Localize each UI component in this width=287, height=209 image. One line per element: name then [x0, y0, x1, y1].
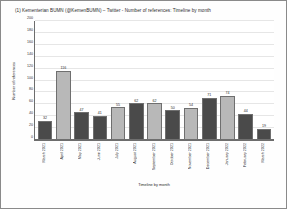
- x-axis-title: Timeline by month: [34, 182, 274, 187]
- bar-slot: 71: [200, 21, 218, 140]
- bar[interactable]: 54: [184, 108, 199, 140]
- x-label-wrap: October 2021: [168, 143, 177, 177]
- x-label-wrap: March 2022: [259, 143, 268, 177]
- chart-title: (1) Kementerian BUMN (@KemenBUMN) – Twit…: [15, 8, 277, 14]
- x-label-wrap: September 2021: [150, 143, 159, 177]
- y-tick-label: 40: [29, 111, 33, 115]
- x-label-wrap: May 2021: [76, 143, 85, 177]
- x-tick-label: May 2021: [76, 143, 85, 159]
- x-label-slot: July 2021: [108, 142, 126, 178]
- x-tick-label: December 2021: [204, 143, 213, 169]
- x-label-slot: January 2022: [218, 142, 236, 178]
- bar-value-label: 54: [189, 103, 193, 107]
- x-label-wrap: April 2021: [58, 143, 67, 177]
- x-tick-label: September 2021: [150, 143, 159, 170]
- x-label-slot: March 2021: [35, 142, 53, 178]
- x-label-wrap: December 2021: [204, 143, 213, 177]
- y-axis-title-wrap: Number of references: [9, 21, 18, 141]
- y-axis-title: Number of references: [11, 62, 16, 100]
- x-axis-tick-labels: March 2021April 2021May 2021June 2021Jul…: [34, 142, 274, 178]
- x-label-slot: November 2021: [182, 142, 200, 178]
- bar-value-label: 32: [43, 116, 47, 120]
- x-label-wrap: November 2021: [186, 143, 195, 177]
- x-tick-label: August 2021: [131, 143, 140, 164]
- bar-slot: 47: [72, 21, 90, 140]
- y-tick-label: 80: [29, 87, 33, 91]
- x-tick-label: March 2022: [259, 143, 268, 162]
- bar-slot: 44: [237, 21, 255, 140]
- x-tick-label: June 2021: [95, 143, 104, 160]
- plot-area: 020406080100120140160180200 321164741556…: [34, 21, 274, 141]
- bar[interactable]: 47: [74, 112, 89, 140]
- x-label-slot: May 2021: [72, 142, 90, 178]
- y-tick-label: 0: [31, 135, 33, 139]
- bar-value-label: 50: [171, 106, 175, 110]
- bar[interactable]: 62: [147, 103, 162, 140]
- bar-value-label: 44: [244, 109, 248, 113]
- bar-slot: 41: [91, 21, 109, 140]
- x-label-wrap: March 2021: [40, 143, 49, 177]
- bar[interactable]: 19: [257, 129, 272, 140]
- bar-slot: 116: [54, 21, 72, 140]
- bar-value-label: 55: [116, 103, 120, 107]
- x-label-slot: February 2022: [236, 142, 254, 178]
- x-tick-label: July 2021: [113, 143, 122, 159]
- y-tick-label: 100: [27, 76, 33, 80]
- bar-value-label: 19: [262, 124, 266, 128]
- bar-value-label: 47: [80, 108, 84, 112]
- x-label-slot: September 2021: [145, 142, 163, 178]
- x-tick-label: October 2021: [168, 143, 177, 165]
- x-label-wrap: June 2021: [95, 143, 104, 177]
- x-tick-label: March 2021: [40, 143, 49, 162]
- x-label-wrap: January 2022: [223, 143, 232, 177]
- bar-slot: 50: [164, 21, 182, 140]
- y-tick-label: 120: [27, 64, 33, 68]
- bar[interactable]: 44: [238, 114, 253, 140]
- bar[interactable]: 55: [111, 107, 126, 140]
- y-tick-label: 20: [29, 123, 33, 127]
- bar-value-label: 71: [207, 93, 211, 97]
- x-tick-label: January 2022: [223, 143, 232, 165]
- bar[interactable]: 50: [165, 110, 180, 140]
- y-tick-label: 180: [27, 28, 33, 32]
- x-label-wrap: February 2022: [241, 143, 250, 177]
- bar[interactable]: 62: [129, 103, 144, 140]
- y-tick-label: 140: [27, 52, 33, 56]
- bar-series: 321164741556262505471744419: [35, 21, 274, 140]
- bar-slot: 32: [36, 21, 54, 140]
- bar[interactable]: 41: [93, 116, 108, 140]
- bar-slot: 54: [182, 21, 200, 140]
- bar-slot: 62: [127, 21, 145, 140]
- x-label-slot: March 2022: [255, 142, 273, 178]
- bar-value-label: 62: [153, 99, 157, 103]
- bar-slot: 19: [255, 21, 273, 140]
- x-label-wrap: August 2021: [131, 143, 140, 177]
- bar[interactable]: 71: [202, 98, 217, 140]
- bar-value-label: 62: [134, 99, 138, 103]
- x-label-slot: August 2021: [127, 142, 145, 178]
- x-label-wrap: July 2021: [113, 143, 122, 177]
- x-tick-label: April 2021: [58, 143, 67, 160]
- x-tick-label: February 2022: [241, 143, 250, 167]
- y-tick-label: 200: [27, 16, 33, 20]
- x-tick-label: November 2021: [186, 143, 195, 169]
- y-tick-label: 160: [27, 40, 33, 44]
- bar[interactable]: 116: [56, 71, 71, 140]
- bar[interactable]: 74: [220, 96, 235, 140]
- x-label-slot: April 2021: [53, 142, 71, 178]
- bar-slot: 62: [145, 21, 163, 140]
- bar-slot: 74: [218, 21, 236, 140]
- x-label-slot: June 2021: [90, 142, 108, 178]
- bar-slot: 55: [109, 21, 127, 140]
- bar-value-label: 41: [98, 111, 102, 115]
- bar-value-label: 116: [60, 66, 66, 70]
- y-tick-label: 60: [29, 99, 33, 103]
- x-label-slot: December 2021: [200, 142, 218, 178]
- bar[interactable]: 32: [38, 121, 53, 140]
- chart-figure: (1) Kementerian BUMN (@KemenBUMN) – Twit…: [0, 0, 287, 209]
- x-label-slot: October 2021: [163, 142, 181, 178]
- bar-value-label: 74: [225, 91, 229, 95]
